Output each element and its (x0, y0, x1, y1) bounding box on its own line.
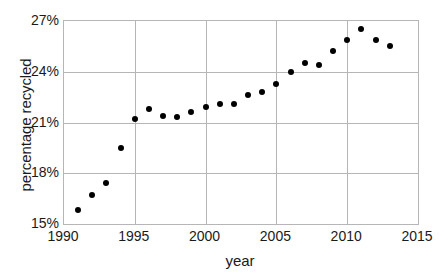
data-point (217, 101, 223, 107)
data-point (288, 69, 294, 75)
gridline-y-21 (64, 123, 418, 124)
data-point (245, 92, 251, 98)
plot-area (63, 20, 419, 225)
x-tick-label-2005: 2005 (245, 228, 305, 244)
gridline-y-24 (64, 72, 418, 73)
y-tick-label-18: 18% (1, 164, 59, 180)
data-point (118, 145, 124, 151)
data-point (132, 116, 138, 122)
data-point (273, 81, 279, 87)
x-tick-label-2010: 2010 (316, 228, 376, 244)
data-point (174, 114, 180, 120)
gridline-x-2010 (347, 21, 348, 224)
x-tick-label-2000: 2000 (175, 228, 235, 244)
y-axis-tick-labels: 15%18%21%24%27% (0, 20, 59, 223)
data-point (259, 89, 265, 95)
gridline-x-1995 (135, 21, 136, 224)
gridline-x-2000 (206, 21, 207, 224)
x-tick-label-1995: 1995 (104, 228, 164, 244)
x-axis-title: year (63, 252, 417, 269)
data-point (146, 106, 152, 112)
scatter-chart-figure: percentage recycled 15%18%21%24%27% 1990… (0, 0, 439, 278)
x-tick-label-2015: 2015 (387, 228, 439, 244)
y-tick-label-24: 24% (1, 63, 59, 79)
data-point (160, 113, 166, 119)
data-point (358, 26, 364, 32)
data-point (330, 48, 336, 54)
data-point (203, 104, 209, 110)
x-axis-tick-labels: 199019952000200520102015 (63, 228, 417, 248)
data-point (302, 60, 308, 66)
data-point (387, 43, 393, 49)
y-tick-label-27: 27% (1, 12, 59, 28)
gridline-y-18 (64, 173, 418, 174)
data-point (75, 207, 81, 213)
data-point (103, 180, 109, 186)
x-tick-label-1990: 1990 (33, 228, 93, 244)
data-point (89, 192, 95, 198)
data-point (231, 101, 237, 107)
data-point (373, 37, 379, 43)
data-point (188, 109, 194, 115)
data-point (316, 62, 322, 68)
gridline-x-2005 (276, 21, 277, 224)
y-tick-label-21: 21% (1, 114, 59, 130)
data-point (344, 37, 350, 43)
